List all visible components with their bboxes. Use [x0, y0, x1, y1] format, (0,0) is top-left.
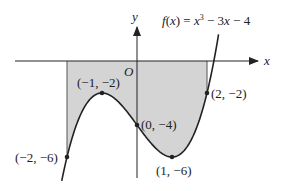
- point-label-0-neg4: (0, −4): [141, 117, 177, 132]
- function-graph: x y O f(x) = x3 − 3x − 4 (−2, −6) (−1, −…: [0, 0, 282, 191]
- point-label-2-neg2: (2, −2): [211, 86, 247, 101]
- point-marker: [170, 155, 175, 160]
- x-axis-label: x: [263, 53, 270, 68]
- point-marker: [65, 155, 70, 160]
- point-label-neg1-neg2: (−1, −2): [77, 75, 120, 90]
- y-axis-label: y: [130, 9, 138, 24]
- function-label: f(x) = x3 − 3x − 4: [162, 13, 251, 28]
- point-marker: [100, 91, 105, 96]
- point-marker: [135, 123, 140, 128]
- point-label-neg2-neg6: (−2, −6): [15, 150, 58, 165]
- point-marker: [205, 91, 210, 96]
- origin-label: O: [124, 64, 134, 79]
- point-label-1-neg6: (1, −6): [156, 163, 192, 178]
